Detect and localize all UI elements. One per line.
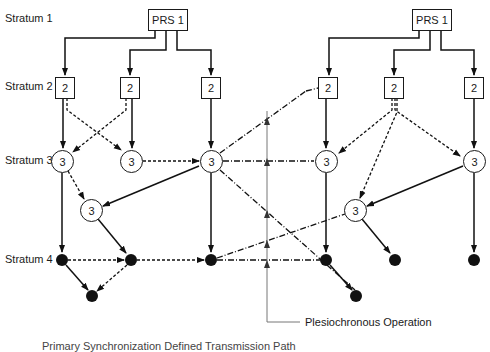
stratum4-node (389, 254, 401, 266)
stratum4-node (86, 290, 98, 302)
stratum2-node: 2 (55, 77, 75, 99)
stratum4-node (468, 254, 480, 266)
stratum-4-label: Stratum 4 (5, 253, 53, 265)
stratum3-node: 3 (463, 150, 486, 173)
footer-clipped-text: Primary Synchronization Defined Transmis… (42, 340, 296, 352)
stratum2-node: 2 (201, 77, 221, 99)
stratum-3-label: Stratum 3 (5, 154, 53, 166)
stratum3-node: 3 (344, 199, 367, 222)
stratum4-node (350, 290, 362, 302)
stratum-2-label: Stratum 2 (5, 80, 53, 92)
stratum3-node: 3 (120, 150, 143, 173)
stratum-1-label: Stratum 1 (5, 12, 53, 24)
stratum3-node: 3 (315, 150, 338, 173)
stratum3-node: 3 (200, 150, 223, 173)
stratum2-node: 2 (464, 77, 484, 99)
prs-node-right: PRS 1 (412, 9, 452, 31)
stratum4-node (125, 254, 137, 266)
stratum2-node: 2 (318, 77, 338, 99)
prs-node-left: PRS 1 (148, 9, 188, 31)
stratum4-node (320, 254, 332, 266)
stratum2-node: 2 (120, 77, 140, 99)
stratum2-node: 2 (384, 77, 404, 99)
stratum4-node (205, 254, 217, 266)
plesiochronous-label: Plesiochronous Operation (305, 316, 432, 328)
stratum4-node (56, 254, 68, 266)
stratum3-node: 3 (80, 199, 103, 222)
stratum3-node: 3 (51, 150, 74, 173)
